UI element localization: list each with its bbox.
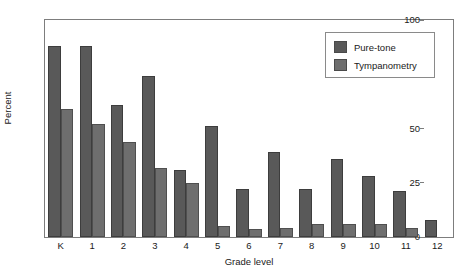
bar: [331, 159, 344, 237]
x-axis-tick-label: 12: [422, 240, 452, 251]
bar: [111, 105, 124, 237]
bar-chart-figure: Percent 0255075100 K123456789101112 Grad…: [0, 0, 468, 279]
bar: [92, 124, 105, 237]
x-axis-tick-label: 3: [140, 240, 170, 251]
bar: [155, 168, 168, 237]
x-axis-tick-label: 2: [108, 240, 138, 251]
y-axis: Percent: [0, 0, 44, 279]
legend-swatch-icon: [334, 41, 347, 53]
bar: [61, 109, 74, 237]
bar: [218, 226, 231, 237]
bar: [425, 220, 438, 237]
bar: [312, 224, 325, 237]
y-axis-title-label: Percent: [2, 48, 13, 168]
bar: [174, 170, 187, 237]
bar: [48, 46, 61, 237]
bar: [142, 76, 155, 237]
x-axis-tick-label: 10: [360, 240, 390, 251]
x-axis-tick-label: 7: [265, 240, 295, 251]
x-axis-tick-label: 4: [171, 240, 201, 251]
legend-swatch-icon: [334, 59, 347, 71]
x-axis-tick-label: K: [46, 240, 76, 251]
y-axis-title: Percent: [2, 0, 14, 11]
bar: [268, 152, 281, 237]
bar: [186, 183, 199, 237]
legend-entry: Tympanometry: [334, 56, 434, 74]
bar: [362, 176, 375, 237]
bar: [299, 189, 312, 237]
legend-label: Tympanometry: [354, 60, 417, 71]
bar: [236, 189, 249, 237]
bar: [375, 224, 388, 237]
legend-entry: Pure-tone: [334, 38, 434, 56]
x-axis-tick-label: 9: [328, 240, 358, 251]
bar: [406, 228, 419, 237]
bar: [80, 46, 93, 237]
bar: [280, 228, 293, 237]
bar: [123, 142, 136, 237]
bar: [205, 126, 218, 237]
x-axis-tick-label: 11: [391, 240, 421, 251]
x-axis-tick-label: 6: [234, 240, 264, 251]
bar: [393, 191, 406, 237]
bar: [343, 224, 356, 237]
x-axis-tick-label: 5: [203, 240, 233, 251]
bar: [249, 229, 262, 237]
x-axis-title: Grade level: [44, 256, 454, 267]
legend: Pure-toneTympanometry: [325, 32, 435, 78]
legend-label: Pure-tone: [354, 42, 396, 53]
x-axis-tick-label: 1: [77, 240, 107, 251]
x-axis-tick-label: 8: [297, 240, 327, 251]
